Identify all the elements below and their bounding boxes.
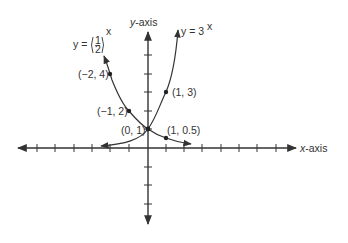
label-neg1-2: (−1, 2) — [97, 105, 128, 117]
fraction-one-half: 1 2 — [92, 34, 104, 55]
label-curve-3-pow-x-exponent: x — [207, 20, 213, 32]
x-axis-label: x-axis — [299, 142, 327, 154]
point-0-1 — [146, 127, 151, 132]
exponential-graph: y-axis x-axis (−2, 4) (−1, 2) (0, 1) (1,… — [0, 0, 348, 243]
label-1-0.5: (1, 0.5) — [167, 124, 200, 136]
label-curve-half-pow-x-exponent: x — [106, 25, 112, 37]
label-neg2-4: (−2, 4) — [78, 68, 109, 80]
x-axis — [18, 144, 296, 152]
label-curve-3-pow-x: y = 3 — [181, 25, 204, 37]
label-curve-half-pow-x: y = — [73, 38, 87, 50]
point-1-3 — [164, 90, 168, 94]
point-1-0.5 — [164, 136, 168, 140]
svg-text:2: 2 — [95, 43, 101, 55]
y-axis-label: y-axis — [129, 16, 157, 28]
label-0-1: (0, 1) — [121, 124, 146, 136]
label-1-3: (1, 3) — [172, 86, 197, 98]
